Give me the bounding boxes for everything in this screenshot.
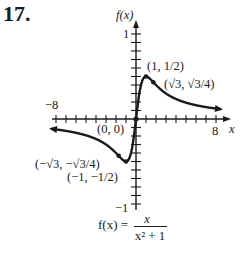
formula-denominator: x² + 1 <box>135 228 166 243</box>
point-inflection-positive <box>151 80 156 85</box>
x-tick-label-right: 8 <box>212 124 218 138</box>
curve-left-arrow-icon <box>49 126 57 133</box>
label-point-origin: (0, 0) <box>97 122 124 136</box>
formula-numerator: x <box>143 211 150 226</box>
point-inflection-negative <box>116 154 121 159</box>
y-axis-arrow-icon <box>133 20 139 28</box>
x-axis-label: x <box>228 122 235 136</box>
y-axis-label: f(x) <box>116 8 133 22</box>
formula-lhs: f(x) = <box>98 217 128 232</box>
label-point-min: (−1, −1/2) <box>67 170 118 184</box>
function-graph: f(x) 1 −1 −8 8 x (1, 1/2) (√3, √3/4) (0,… <box>0 0 240 257</box>
point-origin <box>133 116 138 121</box>
label-point-inflection-negative: (−√3, −√3/4) <box>35 157 100 171</box>
label-point-inflection-positive: (√3, √3/4) <box>164 77 215 91</box>
y-tick-label-bottom: −1 <box>115 201 128 215</box>
label-point-max: (1, 1/2) <box>147 59 184 73</box>
x-tick-label-left: −8 <box>45 98 58 112</box>
y-tick-label-top: 1 <box>123 27 129 41</box>
point-max <box>144 74 149 79</box>
curve-right-arrow-icon <box>215 105 223 112</box>
point-min <box>124 159 129 164</box>
